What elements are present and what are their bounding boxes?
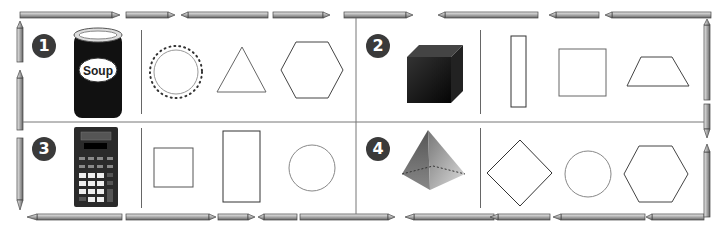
- problem-number-badge: 2: [366, 34, 390, 58]
- divider: [141, 128, 142, 208]
- pyramid-image: [401, 128, 467, 192]
- divider: [480, 30, 481, 114]
- soup-label: Soup: [82, 64, 114, 78]
- choice-hexagon[interactable]: [279, 40, 345, 100]
- choice-trapezoid[interactable]: [625, 55, 691, 89]
- choice-hexagon[interactable]: [622, 144, 690, 204]
- divider: [480, 128, 481, 208]
- problem-4: 4: [357, 124, 704, 214]
- choice-rectangle[interactable]: [509, 34, 529, 110]
- choice-square[interactable]: [557, 47, 609, 99]
- choice-triangle[interactable]: [214, 44, 270, 96]
- cube-image: [407, 45, 465, 105]
- choice-square[interactable]: [152, 146, 196, 190]
- problem-number-badge: 4: [366, 137, 390, 161]
- problem-number-badge: 3: [32, 137, 56, 161]
- problem-2: 2: [357, 20, 704, 120]
- problem-3: 3: [24, 124, 356, 214]
- choice-circle[interactable]: [286, 142, 338, 194]
- choice-circle-marked[interactable]: [146, 40, 206, 104]
- problem-1: 1 Soup: [24, 20, 356, 120]
- problem-number-badge: 1: [32, 34, 56, 58]
- choice-rhombus[interactable]: [485, 138, 555, 208]
- calculator-image: [74, 127, 118, 209]
- choice-rectangle[interactable]: [221, 129, 263, 205]
- divider: [141, 30, 142, 114]
- choice-circle[interactable]: [562, 148, 614, 200]
